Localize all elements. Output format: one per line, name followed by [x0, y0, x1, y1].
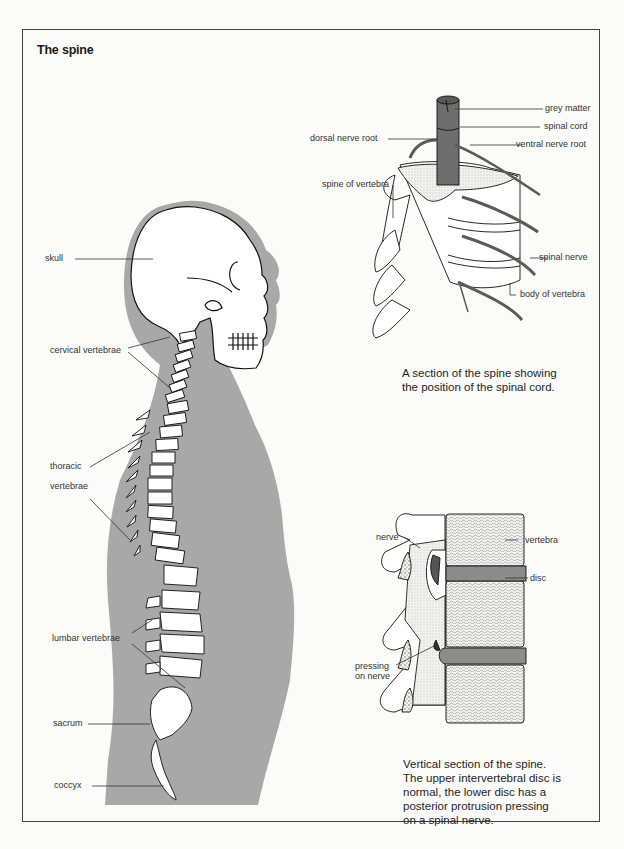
label-dorsal-nerve-root: dorsal nerve root [310, 133, 378, 144]
label-lumbar-vertebrae: lumbar vertebrae [52, 633, 120, 644]
vertical-section-drawing [380, 514, 526, 723]
label-on-nerve: on nerve [355, 671, 390, 682]
label-grey-matter: grey matter [545, 103, 591, 114]
illustrations [0, 0, 624, 849]
vertical-caption: Vertical section of the spine. The upper… [403, 757, 561, 827]
label-spinal-nerve: spinal nerve [539, 252, 588, 263]
spine-section-drawing [373, 96, 540, 338]
label-thoracic: thoracic [50, 461, 82, 472]
label-disc: disc [530, 573, 546, 584]
label-skull: skull [45, 253, 63, 264]
label-spinal-cord: spinal cord [544, 121, 588, 132]
label-spine-of-vertebra: spine of vertebra [322, 179, 389, 190]
label-sacrum: sacrum [53, 718, 83, 729]
label-body-of-vertebra: body of vertebra [520, 289, 585, 300]
label-coccyx: coccyx [54, 780, 82, 791]
label-nerve: nerve [376, 532, 399, 543]
label-vertebra: vertebra [525, 535, 558, 546]
label-ventral-nerve-root: ventral nerve root [516, 139, 586, 150]
section-caption: A section of the spine showing the posit… [402, 366, 557, 394]
label-cervical-vertebrae: cervical vertebrae [50, 345, 121, 356]
label-thoracic-vertebrae: vertebrae [50, 481, 88, 492]
